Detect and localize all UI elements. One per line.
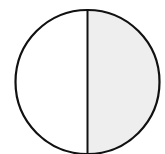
- unshaded-half: [16, 10, 88, 154]
- shaded-half: [88, 10, 160, 154]
- fraction-circle-diagram: [0, 0, 165, 154]
